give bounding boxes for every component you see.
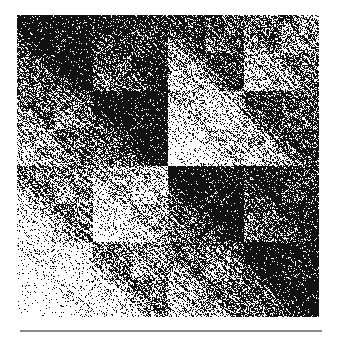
fractal-pattern-figure <box>17 15 319 317</box>
horizontal-rule <box>20 330 322 332</box>
fractal-canvas <box>17 15 319 317</box>
